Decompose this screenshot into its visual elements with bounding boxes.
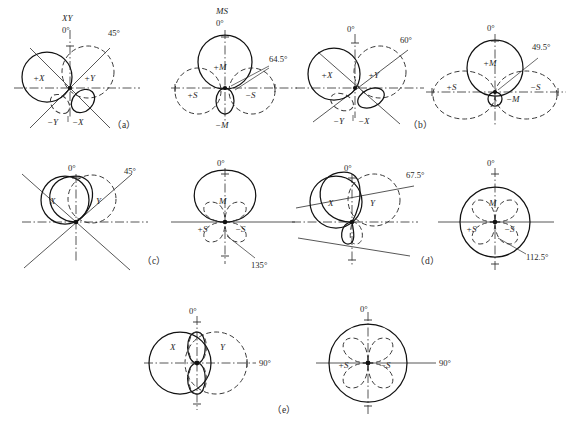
label-zero-e-ms: 0°: [360, 304, 368, 314]
label-lobe-minus-s-e: −S: [380, 360, 391, 370]
caption-a: （a）: [112, 117, 136, 131]
label-lobe-m-d: M: [488, 198, 497, 208]
panel-row-d-xy: 0° 67.5° X Y: [282, 152, 442, 292]
label-lobe-plus-s-c: +S: [197, 224, 208, 234]
label-angle-e-xy: 90°: [259, 358, 272, 368]
label-lobe-minus-s-b: −S: [530, 82, 541, 92]
label-angle-a-xy: 45°: [108, 28, 121, 38]
label-zero-a-ms: 0°: [216, 18, 224, 28]
label-angle-a-ms: 64.5°: [269, 54, 288, 64]
label-angle-d-ms: 112.5°: [526, 252, 549, 262]
panel-row-d-ms: 0° 112.5° M +S −S: [428, 152, 575, 292]
label-lobe-plus-m: +M: [213, 62, 227, 72]
label-lobe-minus-y-b: −Y: [333, 116, 345, 126]
label-lobe-minus-x: −X: [72, 117, 84, 127]
panel-row-c-xy: 0° 45° X Y: [8, 152, 168, 292]
label-lobe-plus-s-d: +S: [466, 224, 477, 234]
label-lobe-x-d: X: [327, 198, 334, 208]
label-lobe-plus-y: +Y: [84, 73, 96, 83]
panel-row-e-ms: 0° 90° +S −S: [300, 300, 480, 428]
figure-root: XY 0° 45° +X +Y −Y −X MS 0° 64.5° +M −M …: [0, 0, 575, 428]
label-lobe-x-e: X: [169, 342, 176, 352]
label-lobe-minus-x-b: −X: [358, 116, 370, 126]
label-lobe-minus-s-c: −S: [235, 224, 246, 234]
label-lobe-minus-s: −S: [245, 90, 256, 100]
label-lobe-plus-s-e: +S: [338, 360, 349, 370]
label-zero-d-ms: 0°: [487, 158, 495, 168]
panel-row-e-xy: 0° 90° X Y: [130, 300, 290, 428]
label-zero-d-xy: 0°: [344, 163, 352, 173]
label-zero-b-ms: 0°: [487, 23, 495, 33]
label-angle-c-ms: 135°: [251, 260, 268, 270]
label-lobe-minus-y: −Y: [47, 117, 59, 127]
label-lobe-plus-m-b: +M: [483, 58, 497, 68]
label-zero-c-xy: 0°: [68, 163, 76, 173]
label-lobe-y-d: Y: [370, 198, 376, 208]
label-angle-b-ms: 49.5°: [532, 42, 551, 52]
label-lobe-x-c: X: [49, 196, 56, 206]
label-zero-c-ms: 0°: [217, 158, 225, 168]
label-lobe-plus-s-b: +S: [446, 82, 457, 92]
label-lobe-m-c: M: [218, 196, 227, 206]
panel-row-a-ms: MS 0° 64.5° +M −M +S −S: [165, 0, 305, 145]
caption-c: （c）: [142, 253, 166, 267]
label-lobe-plus-x: +X: [33, 73, 45, 83]
label-angle-e-ms: 90°: [439, 358, 452, 368]
label-lobe-minus-m-b: −M: [506, 94, 520, 104]
caption-d: （d）: [415, 253, 440, 267]
label-angle-c-xy: 45°: [124, 166, 137, 176]
label-lobe-plus-y-b: +Y: [368, 70, 380, 80]
label-lobe-y-e: Y: [220, 342, 226, 352]
label-zero-b-xy: 0°: [347, 24, 355, 34]
label-system-ms: MS: [215, 6, 228, 16]
label-zero-e-xy: 0°: [189, 306, 197, 316]
caption-e: （e）: [272, 402, 296, 416]
caption-b: （b）: [408, 117, 433, 131]
label-lobe-minus-m: −M: [215, 120, 229, 130]
label-angle-b-xy: 60°: [400, 35, 413, 45]
label-zero-a-xy: 0°: [62, 25, 70, 35]
label-lobe-plus-s: +S: [187, 90, 198, 100]
label-lobe-plus-x-b: +X: [321, 70, 333, 80]
label-lobe-minus-s-d: −S: [504, 224, 515, 234]
label-angle-d-xy: 67.5°: [406, 170, 425, 180]
panel-row-b-ms: 0° 49.5° +M −M +S −S: [420, 0, 575, 145]
label-system-xy: XY: [61, 13, 73, 23]
